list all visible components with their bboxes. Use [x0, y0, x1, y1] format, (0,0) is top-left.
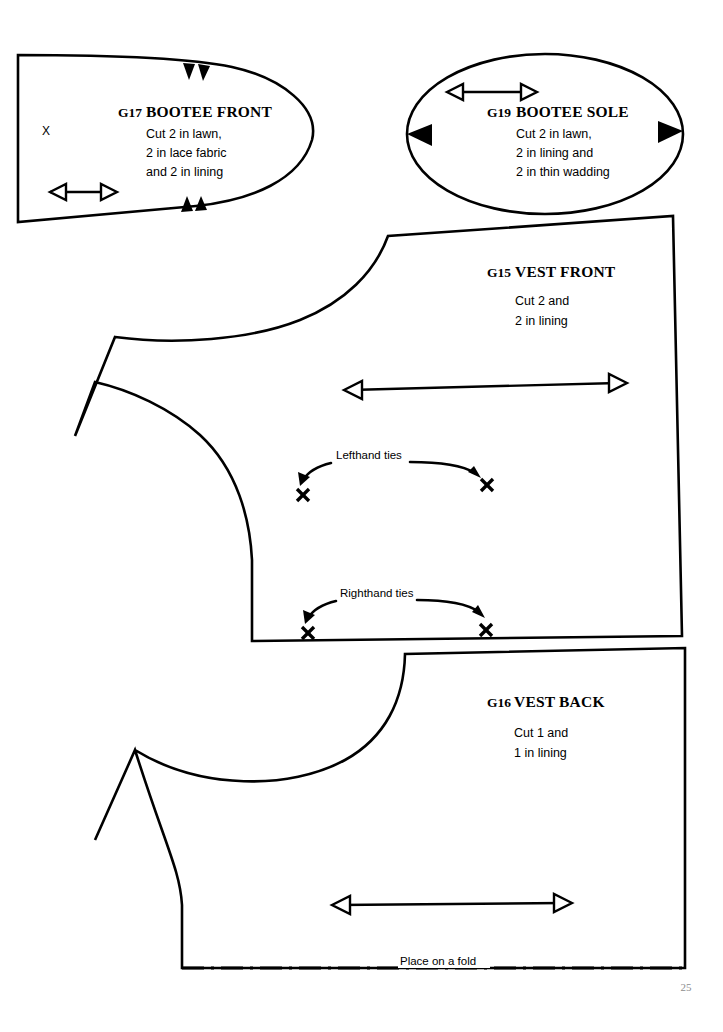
- piece-vest-front: G15 VEST FRONT Cut 2 and 2 in lining Lef…: [75, 216, 682, 641]
- pattern-sheet-canvas: X G17 BOOTEE FRONT Cut 2 in lawn, 2 in l…: [0, 0, 723, 1032]
- righthand-ties-label: Righthand ties: [340, 587, 414, 599]
- vest-back-instruction-2: 1 in lining: [514, 746, 567, 760]
- bootee-sole-code: G19: [487, 105, 511, 120]
- bootee-front-title: BOOTEE FRONT: [146, 103, 272, 120]
- bootee-sole-instruction-1: Cut 2 in lawn,: [516, 127, 592, 141]
- bootee-front-code: G17: [118, 105, 142, 120]
- bootee-front-instruction-3: and 2 in lining: [146, 165, 223, 179]
- piece-bootee-front: X G17 BOOTEE FRONT Cut 2 in lawn, 2 in l…: [18, 55, 313, 222]
- vest-front-instruction-1: Cut 2 and: [515, 294, 569, 308]
- vest-back-instruction-1: Cut 1 and: [514, 726, 568, 740]
- bootee-front-x-mark: X: [42, 124, 50, 138]
- vest-front-code: G15: [487, 265, 511, 280]
- bootee-sole-instruction-2: 2 in lining and: [516, 146, 593, 160]
- bootee-sole-title: BOOTEE SOLE: [516, 103, 629, 120]
- bootee-front-instruction-1: Cut 2 in lawn,: [146, 127, 222, 141]
- place-on-fold-label: Place on a fold: [400, 955, 476, 967]
- vest-front-instruction-2: 2 in lining: [515, 314, 568, 328]
- lefthand-ties-label: Lefthand ties: [336, 449, 402, 461]
- vest-back-title: VEST BACK: [514, 693, 605, 710]
- bootee-front-instruction-2: 2 in lace fabric: [146, 146, 227, 160]
- vest-front-title: VEST FRONT: [515, 263, 616, 280]
- pattern-sheet: X G17 BOOTEE FRONT Cut 2 in lawn, 2 in l…: [0, 0, 723, 1032]
- piece-vest-back: G16 VEST BACK Cut 1 and 1 in lining Plac…: [95, 648, 685, 968]
- vest-back-code: G16: [487, 695, 511, 710]
- piece-bootee-sole: G19 BOOTEE SOLE Cut 2 in lawn, 2 in lini…: [407, 54, 683, 214]
- page-number: 25: [681, 981, 693, 993]
- bootee-sole-instruction-3: 2 in thin wadding: [516, 165, 610, 179]
